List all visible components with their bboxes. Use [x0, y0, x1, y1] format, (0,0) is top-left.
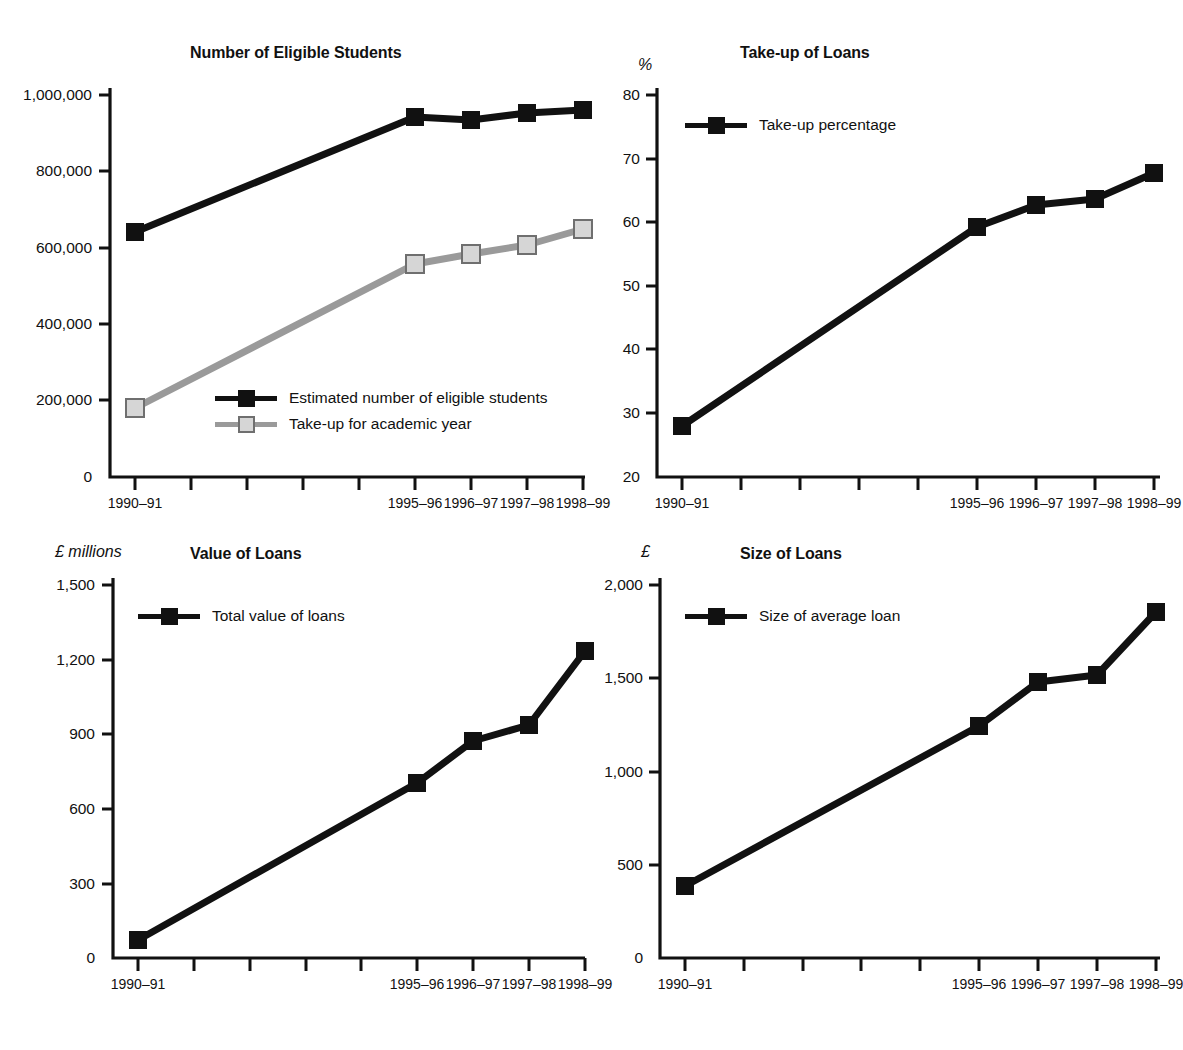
x-tick-label: 1996–97: [446, 976, 501, 992]
y-tick-label: 200,000: [0, 391, 92, 409]
chart-panel-value: Value of Loans £ millions: [0, 525, 600, 1050]
legend-swatch-grey-icon: [215, 413, 277, 435]
y-tick-label: 300: [0, 875, 95, 893]
x-tick-label: 1997–98: [1068, 495, 1123, 511]
axis-lines: [660, 578, 1160, 958]
x-tick-label: 1990–91: [658, 976, 713, 992]
chart-panel-takeup: Take-up of Loans %: [600, 0, 1175, 525]
legend-swatch-dark-icon: [685, 114, 747, 136]
y-tick-label: 800,000: [0, 162, 92, 180]
x-tick-marks: [135, 477, 583, 490]
series-markers-takeup-percentage: [673, 164, 1163, 435]
y-tick-label: 900: [0, 725, 95, 743]
y-tick-marks: [99, 95, 110, 400]
y-tick-label: 600: [0, 800, 95, 818]
y-tick-label: 0: [0, 468, 92, 486]
y-tick-marks: [646, 95, 657, 413]
legend-students: Estimated number of eligible students Ta…: [215, 385, 547, 437]
legend-item[interactable]: Total value of loans: [138, 603, 345, 629]
y-tick-marks: [102, 585, 113, 884]
x-tick-label: 1998–99: [1127, 495, 1182, 511]
legend-swatch-dark-icon: [215, 387, 277, 409]
y-tick-label: 50: [600, 277, 640, 295]
plot-area-students: [0, 0, 600, 525]
y-tick-label: 40: [600, 340, 640, 358]
axis-lines: [657, 88, 1160, 477]
legend-swatch-dark-icon: [685, 605, 747, 627]
y-tick-label: 1,000: [600, 763, 643, 781]
legend-swatch-dark-icon: [138, 605, 200, 627]
chart-panel-size: Size of Loans £: [600, 525, 1175, 1050]
x-tick-marks: [682, 477, 1154, 490]
y-tick-label: 2,000: [600, 576, 643, 594]
y-tick-label: 80: [600, 86, 640, 104]
x-tick-label: 1995–96: [388, 495, 443, 511]
series-line-total-value: [138, 651, 585, 940]
legend-item[interactable]: Estimated number of eligible students: [215, 385, 547, 411]
legend-label: Take-up percentage: [759, 116, 896, 134]
y-tick-label: 400,000: [0, 315, 92, 333]
x-tick-label: 1996–97: [1009, 495, 1064, 511]
legend-label: Take-up for academic year: [289, 415, 472, 433]
x-tick-label: 1998–99: [1129, 976, 1183, 992]
plot-svg-takeup: [600, 0, 1175, 525]
y-tick-label: 20: [600, 468, 640, 486]
chart-panel-students: Number of Eligible Students: [0, 0, 600, 525]
y-tick-label: 0: [0, 949, 95, 967]
legend-takeup: Take-up percentage: [685, 112, 896, 138]
legend-value: Total value of loans: [138, 603, 345, 629]
x-tick-label: 1995–96: [952, 976, 1007, 992]
x-tick-label: 1995–96: [390, 976, 445, 992]
y-tick-marks: [649, 585, 660, 865]
legend-label: Total value of loans: [212, 607, 345, 625]
y-tick-label: 1,500: [600, 669, 643, 687]
x-tick-label: 1996–97: [1011, 976, 1066, 992]
legend-item[interactable]: Take-up for academic year: [215, 411, 547, 437]
series-line-takeup-academic: [135, 229, 583, 408]
legend-item[interactable]: Size of average loan: [685, 603, 900, 629]
series-line-average-size: [685, 612, 1156, 886]
x-tick-label: 1997–98: [500, 495, 555, 511]
plot-area-takeup: [600, 0, 1175, 525]
axis-lines: [113, 578, 585, 958]
series-markers-eligible-students: [126, 101, 592, 241]
plot-svg-students: [0, 0, 600, 525]
y-tick-label: 1,500: [0, 576, 95, 594]
y-tick-label: 60: [600, 213, 640, 231]
y-tick-label: 0: [600, 949, 643, 967]
legend-item[interactable]: Take-up percentage: [685, 112, 896, 138]
y-tick-label: 500: [600, 856, 643, 874]
x-tick-label: 1996–97: [444, 495, 499, 511]
y-tick-label: 600,000: [0, 239, 92, 257]
x-tick-marks: [138, 958, 585, 971]
x-tick-label: 1995–96: [950, 495, 1005, 511]
x-tick-label: 1990–91: [655, 495, 710, 511]
series-line-eligible-students: [135, 110, 583, 232]
x-tick-label: 1997–98: [502, 976, 557, 992]
x-tick-label: 1997–98: [1070, 976, 1125, 992]
x-tick-marks: [685, 958, 1156, 971]
y-tick-label: 70: [600, 150, 640, 168]
legend-label: Estimated number of eligible students: [289, 389, 547, 407]
legend-label: Size of average loan: [759, 607, 900, 625]
y-tick-label: 30: [600, 404, 640, 422]
series-line-takeup-percentage: [682, 173, 1154, 426]
x-tick-label: 1990–91: [111, 976, 166, 992]
x-tick-label: 1990–91: [108, 495, 163, 511]
legend-size: Size of average loan: [685, 603, 900, 629]
y-tick-label: 1,000,000: [0, 86, 92, 104]
y-tick-label: 1,200: [0, 651, 95, 669]
